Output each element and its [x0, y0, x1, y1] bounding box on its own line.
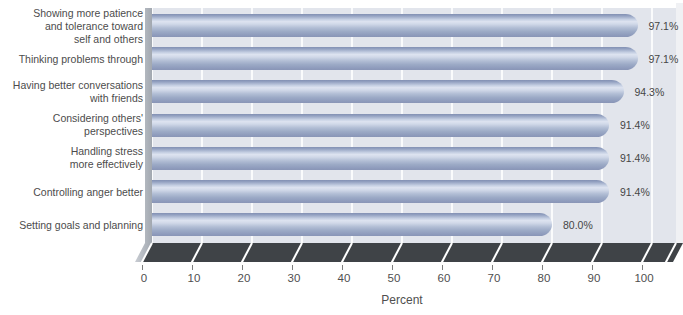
category-label: Controlling anger better — [2, 185, 143, 198]
plot-floor — [142, 243, 683, 262]
plot-right-wall — [676, 3, 683, 243]
category-label: Setting goals and planning — [2, 218, 143, 231]
axis-tick-label: 80 — [529, 272, 559, 284]
category-label: Handling stress more effectively — [2, 145, 143, 171]
axis-tick-label: 40 — [329, 272, 359, 284]
bar — [152, 213, 552, 236]
axis-tick-mark — [642, 265, 643, 270]
bar-chart: Percent 0102030405060708090100Showing mo… — [0, 0, 683, 315]
value-label: 91.4% — [620, 119, 650, 131]
axis-tick-label: 90 — [579, 272, 609, 284]
axis-tick-label: 70 — [479, 272, 509, 284]
axis-tick-mark — [342, 265, 343, 270]
category-label: Having better conversations with friends — [2, 79, 143, 105]
value-label: 97.1% — [649, 20, 679, 32]
bar — [152, 47, 638, 70]
bar — [152, 14, 638, 37]
axis-tick-label: 0 — [129, 272, 159, 284]
value-label: 91.4% — [620, 186, 650, 198]
value-label: 80.0% — [563, 219, 593, 231]
axis-tick-label: 10 — [179, 272, 209, 284]
value-label: 97.1% — [649, 53, 679, 65]
axis-tick-mark — [542, 265, 543, 270]
grid-line — [651, 8, 653, 243]
value-label: 91.4% — [620, 152, 650, 164]
axis-tick-label: 100 — [629, 272, 659, 284]
axis-tick-label: 60 — [429, 272, 459, 284]
axis-tick-label: 20 — [229, 272, 259, 284]
bar — [152, 80, 624, 103]
category-label: Showing more patience and tolerance towa… — [2, 6, 143, 45]
bar — [152, 147, 609, 170]
bar — [152, 114, 609, 137]
axis-tick-label: 30 — [279, 272, 309, 284]
axis-tick-mark — [392, 265, 393, 270]
category-label: Thinking problems through — [2, 52, 143, 65]
value-label: 94.3% — [635, 86, 665, 98]
axis-tick-mark — [142, 265, 143, 270]
bar — [152, 180, 609, 203]
axis-tick-mark — [192, 265, 193, 270]
axis-tick-mark — [592, 265, 593, 270]
x-axis-label: Percent — [152, 293, 652, 307]
axis-tick-mark — [442, 265, 443, 270]
axis-tick-mark — [242, 265, 243, 270]
axis-tick-label: 50 — [379, 272, 409, 284]
axis-tick-mark — [292, 265, 293, 270]
axis-tick-mark — [492, 265, 493, 270]
category-label: Considering others' perspectives — [2, 112, 143, 138]
